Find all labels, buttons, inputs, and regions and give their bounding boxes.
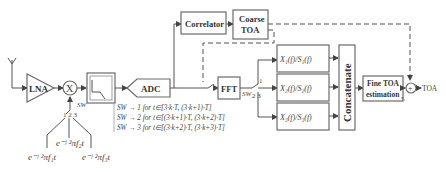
switch-label-left: SW [77, 101, 88, 109]
switch-rule-2: SW → 2 for t∈[(3·k+1)·T, (3·k+2)·T] [117, 114, 225, 122]
svg-text:X: X [66, 83, 74, 94]
switch-rules: SW → 1 for t∈[3·k·T, (3·k+1)·T] SW → 2 f… [114, 103, 225, 132]
svg-text:Coarse: Coarse [239, 14, 265, 24]
svg-text:Concatenate: Concatenate [341, 63, 353, 122]
svg-text:1: 1 [259, 77, 263, 85]
lna-amplifier: LNA [27, 74, 54, 102]
correlator-block: Correlator [181, 12, 226, 34]
concatenate-block: Concatenate [339, 45, 355, 130]
lna-label: LNA [29, 84, 49, 94]
svg-text:X₃(f)/S₃(f): X₃(f)/S₃(f) [279, 113, 312, 122]
svg-text:Correlator: Correlator [185, 19, 224, 29]
svg-text:TOA: TOA [241, 25, 260, 35]
receiver-block-diagram: LNA X SW 1 2 3 e⁻ʲ ²πf₁t e⁻ʲ ²πf₂t e⁻ʲ ²… [0, 0, 446, 172]
svg-text:X₁(f)/S₁(f): X₁(f)/S₁(f) [279, 55, 312, 64]
svg-text:SW: SW [242, 90, 253, 98]
oscillator-2: e⁻ʲ ²πf₂t [56, 138, 85, 148]
svg-text:Fine TOA: Fine TOA [367, 79, 400, 88]
ratio-block-3: X₃(f)/S₃(f) [277, 103, 329, 130]
adder-icon: + [406, 83, 416, 93]
mixer-icon: X [63, 81, 77, 95]
svg-text:X₂(f)/S₂(f): X₂(f)/S₂(f) [279, 84, 312, 93]
svg-text:ADC: ADC [141, 84, 161, 94]
oscillator-3: e⁻ʲ ²πf₃t [82, 152, 111, 162]
fine-toa-block: Fine TOA estimation [363, 76, 403, 101]
antenna-icon [8, 58, 16, 88]
lowpass-filter [87, 73, 115, 103]
oscillator-1: e⁻ʲ ²πf₁t [28, 152, 57, 162]
adc-block: ADC [127, 79, 170, 97]
switch-positions-left: 1 2 3 [63, 111, 78, 119]
coarse-toa-block: Coarse TOA [233, 10, 268, 39]
ratio-block-2: X₂(f)/S₂(f) [277, 74, 329, 101]
svg-text:τ₁: τ₁ [401, 95, 406, 101]
svg-text:+: + [408, 84, 413, 93]
svg-text:estimation: estimation [366, 90, 400, 99]
svg-text:2 3: 2 3 [252, 92, 261, 100]
svg-text:FFT: FFT [221, 84, 237, 94]
switch-rule-1: SW → 1 for t∈[3·k·T, (3·k+1)·T] [117, 104, 212, 112]
ratio-block-1: X₁(f)/S₁(f) [277, 45, 329, 72]
switch-rule-3: SW → 3 for t∈[(3·k+2)·T, (3·k+3)·T] [117, 124, 225, 132]
fft-block: FFT [218, 77, 240, 99]
output-label: TOA [422, 84, 438, 93]
